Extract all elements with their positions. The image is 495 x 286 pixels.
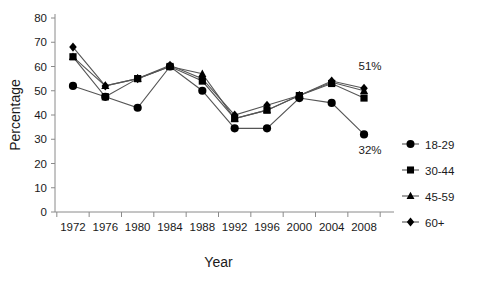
data-point-18-29-1992 [231,124,239,132]
x-tick-label: 2008 [351,221,377,233]
data-point-18-29-1972 [69,82,77,90]
y-tick-label: 30 [34,133,47,145]
data-point-30-44-2008 [360,94,367,101]
data-point-18-29-1996 [263,124,271,132]
y-tick-label: 20 [34,158,47,170]
y-axis-title: Percentage [7,79,23,151]
y-axis: 01020304050607080 [34,12,55,218]
legend-marker-triangle-icon [407,192,415,199]
x-tick-label: 1988 [190,221,216,233]
data-point-18-29-1988 [198,87,206,95]
chart-figure: 01020304050607080 1972197619801984198819… [0,0,495,286]
series-line-60+ [73,47,364,115]
y-tick-label: 70 [34,36,47,48]
x-tick-label: 2004 [319,221,345,233]
y-tick-label: 80 [34,12,47,24]
y-tick-label: 50 [34,85,47,97]
legend-label-30-44: 30-44 [425,165,455,177]
legend-marker-circle-icon [406,140,414,148]
legend-marker-square-icon [407,166,414,173]
x-tick-label: 2000 [287,221,313,233]
legend-label-60+: 60+ [425,217,445,229]
x-tick-label: 1992 [222,221,248,233]
x-axis-title: Year [204,254,233,270]
legend-label-18-29: 18-29 [425,139,454,151]
x-axis: 1972197619801984198819921996200020042008 [55,212,394,233]
data-series-markers [69,43,368,139]
data-point-30-44-1976 [102,93,109,100]
y-tick-label: 10 [34,182,47,194]
x-tick-label: 1980 [125,221,151,233]
data-point-18-29-2004 [328,99,336,107]
line-chart: 01020304050607080 1972197619801984198819… [0,0,495,286]
annotation-51pct: 51% [358,60,381,72]
x-tick-label: 1976 [93,221,119,233]
legend-marker-diamond-icon [407,217,414,226]
x-tick-label: 1996 [254,221,280,233]
y-tick-label: 40 [34,109,47,121]
annotation-32pct: 32% [358,144,381,156]
x-tick-label: 1972 [60,221,86,233]
data-point-18-29-2008 [360,130,368,138]
chart-legend: 18-2930-4445-5960+ [402,139,455,229]
x-axis-title-text: Year [204,254,233,270]
x-tick-label: 1984 [157,221,183,233]
y-axis-title-text: Percentage [7,79,23,151]
data-series-lines [73,47,364,134]
data-annotations: 51%32% [358,60,381,156]
y-tick-label: 60 [34,61,47,73]
legend-label-45-59: 45-59 [425,191,454,203]
y-tick-label: 0 [41,206,47,218]
data-point-18-29-1980 [134,104,142,112]
